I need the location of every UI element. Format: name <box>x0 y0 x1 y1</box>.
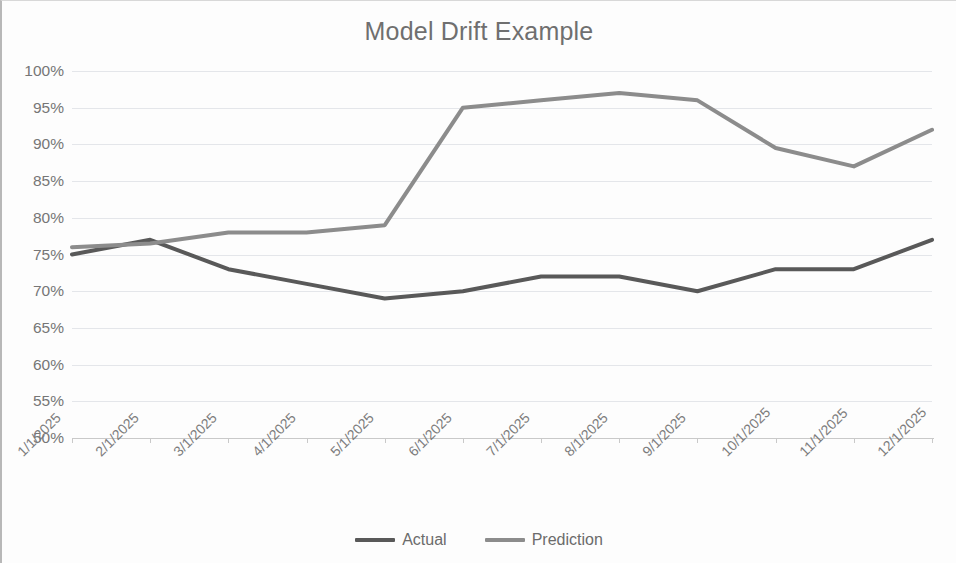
x-axis-tick-mark <box>776 438 777 443</box>
y-axis-tick-label: 75% <box>33 246 64 264</box>
y-axis-tick-label: 80% <box>33 209 64 227</box>
chart-legend: ActualPrediction <box>2 531 956 549</box>
x-axis-tick-mark <box>385 438 386 443</box>
legend-line-icon <box>485 538 525 542</box>
series-line-actual <box>72 240 932 299</box>
y-axis-tick-label: 90% <box>33 135 64 153</box>
x-axis-tick-mark <box>697 438 698 443</box>
plot-area <box>72 71 932 438</box>
x-axis-tick-mark <box>854 438 855 443</box>
x-axis-tick-mark <box>228 438 229 443</box>
y-axis-tick-label: 100% <box>24 62 64 80</box>
y-axis-tick-label: 55% <box>33 392 64 410</box>
series-line-prediction <box>72 93 932 247</box>
legend-line-icon <box>355 538 395 542</box>
y-axis-tick-label: 70% <box>33 282 64 300</box>
y-axis-tick-label: 60% <box>33 356 64 374</box>
x-axis-tick-mark <box>932 438 933 443</box>
legend-entry-prediction[interactable]: Prediction <box>485 531 603 549</box>
series-layer <box>72 71 932 438</box>
x-axis-tick-mark <box>619 438 620 443</box>
x-axis-tick-mark <box>150 438 151 443</box>
chart-title: Model Drift Example <box>2 17 956 46</box>
x-axis-tick-mark <box>463 438 464 443</box>
legend-label: Prediction <box>532 531 603 549</box>
y-axis: 100%95%90%85%80%75%70%65%60%55%50% <box>2 71 64 438</box>
chart-container: Model Drift Example 100%95%90%85%80%75%7… <box>0 0 956 563</box>
x-axis-tick-mark <box>72 438 73 443</box>
y-axis-tick-label: 85% <box>33 172 64 190</box>
legend-entry-actual[interactable]: Actual <box>355 531 446 549</box>
x-axis: 1/1/20252/1/20253/1/20254/1/20255/1/2025… <box>72 438 932 518</box>
legend-label: Actual <box>402 531 446 549</box>
x-axis-tick-mark <box>541 438 542 443</box>
y-axis-tick-label: 95% <box>33 99 64 117</box>
x-axis-tick-mark <box>307 438 308 443</box>
y-axis-tick-label: 65% <box>33 319 64 337</box>
